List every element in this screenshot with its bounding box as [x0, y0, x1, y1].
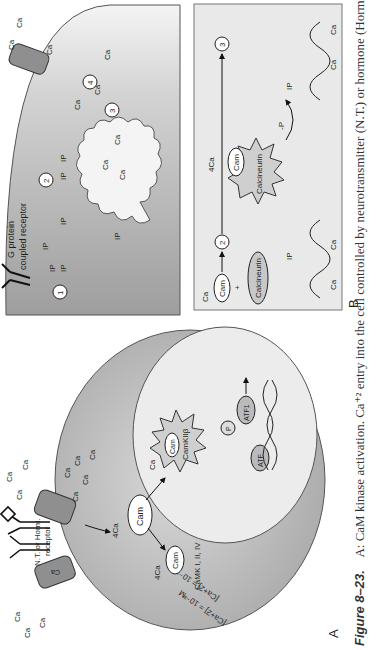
svg-text:Ca: Ca	[73, 455, 82, 466]
svg-text:IP: IP	[285, 82, 294, 90]
panel-a-diagram: Ca N.T. or Horm. receptor Ca Ca Ca Ca	[1, 327, 325, 638]
svg-text:Ca: Ca	[88, 449, 97, 460]
svg-text:IP: IP	[113, 232, 122, 240]
svg-text:-P: -P	[277, 122, 286, 130]
svg-text:Ca: Ca	[23, 627, 32, 638]
svg-text:Ca: Ca	[113, 134, 122, 145]
svg-text:Calcineurin: Calcineurin	[255, 154, 264, 194]
svg-text:Ca: Ca	[5, 471, 14, 482]
svg-text:+: +	[233, 285, 242, 290]
svg-text:Ca: Ca	[45, 44, 54, 55]
svg-text:4Ca: 4Ca	[153, 565, 162, 580]
figure-svg: Ca N.T. or Horm. receptor Ca Ca Ca Ca	[0, 0, 388, 650]
svg-text:IP: IP	[285, 252, 294, 260]
panel-b-diagram: G protein coupled receptor 1 2 3 4 IP IP…	[2, 4, 342, 315]
receptor-label-2: receptor	[43, 526, 52, 556]
svg-text:Calcineurin: Calcineurin	[254, 258, 263, 298]
svg-text:Ca: Ca	[329, 24, 338, 35]
svg-text:Ca: Ca	[329, 239, 338, 250]
panel-a-label: A	[326, 629, 341, 638]
svg-text:IP: IP	[59, 154, 68, 162]
svg-text:1: 1	[56, 290, 65, 295]
svg-text:Ca: Ca	[51, 569, 60, 576]
svg-text:Cam: Cam	[171, 552, 180, 569]
svg-text:4Ca: 4Ca	[207, 157, 216, 172]
svg-text:IP: IP	[48, 264, 57, 272]
four-ca-label: 4Ca	[111, 523, 120, 538]
camkii-beta-label: CamKIIβ	[181, 428, 190, 460]
svg-text:IP: IP	[41, 242, 50, 250]
svg-text:Ca: Ca	[21, 459, 30, 470]
svg-text:Ca: Ca	[148, 459, 157, 470]
svg-text:2: 2	[42, 178, 51, 183]
figure-number: Figure 8–23.	[352, 570, 367, 646]
svg-text:Ca: Ca	[118, 169, 127, 180]
svg-text:Cam: Cam	[218, 280, 227, 297]
svg-text:IP: IP	[59, 217, 68, 225]
svg-text:Ca: Ca	[103, 49, 112, 60]
svg-text:ATF1: ATF1	[243, 404, 250, 421]
figure-page: Ca N.T. or Horm. receptor Ca Ca Ca Ca	[0, 0, 388, 650]
svg-text:Ca: Ca	[201, 291, 210, 302]
svg-text:Cam: Cam	[135, 507, 145, 526]
svg-text:Ca: Ca	[93, 84, 102, 95]
camk-family-label: CaMK I, II, IV	[193, 542, 202, 590]
svg-text:Ca: Ca	[81, 474, 90, 485]
receptor-label-1: N.T. or Horm.	[33, 518, 42, 566]
svg-text:P: P	[225, 426, 232, 431]
g-protein-label-2: coupled receptor	[18, 203, 28, 270]
svg-text:Ca: Ca	[71, 491, 80, 502]
svg-text:3: 3	[108, 108, 117, 113]
svg-text:Cam: Cam	[232, 154, 241, 171]
svg-text:Ca: Ca	[73, 99, 82, 110]
svg-text:Ca: Ca	[101, 159, 110, 170]
svg-text:Ca: Ca	[329, 59, 338, 70]
svg-text:Ca: Ca	[63, 467, 72, 478]
svg-text:Ca: Ca	[38, 617, 47, 628]
svg-text:Cam: Cam	[169, 439, 176, 454]
svg-text:Ca: Ca	[15, 489, 24, 500]
svg-text:Ca: Ca	[329, 279, 338, 290]
svg-text:3: 3	[218, 42, 227, 47]
svg-text:Ca: Ca	[13, 611, 22, 622]
svg-text:Ca: Ca	[15, 17, 24, 28]
svg-text:2: 2	[218, 240, 227, 245]
svg-text:IP: IP	[59, 172, 68, 180]
svg-text:Ca: Ca	[7, 39, 16, 50]
svg-text:IP: IP	[59, 264, 68, 272]
g-protein-label-1: G protein	[6, 221, 16, 258]
caption-text: A: CaM kinase activation. Ca⁺² entry int…	[352, 0, 367, 558]
figure-caption: Figure 8–23. A: CaM kinase activation. C…	[352, 0, 368, 646]
